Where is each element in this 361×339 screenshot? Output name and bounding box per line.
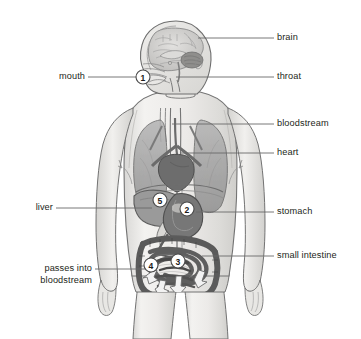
label-brain: brain [277,32,298,44]
label-stomach: stomach [277,206,312,218]
label-passes-into-line2: bloodstream [0,275,92,287]
callout-marker-5[interactable]: 5 [153,193,167,207]
label-mouth: mouth [0,71,85,83]
label-throat: throat [277,71,301,83]
callout-marker-3[interactable]: 3 [171,254,185,268]
label-liver: liver [0,202,53,214]
callout-marker-3-label: 3 [176,257,181,267]
label-bloodstream: bloodstream [277,118,329,130]
callout-marker-2[interactable]: 2 [180,202,194,216]
anatomy-illustration: 1 2 3 4 5 [0,0,361,339]
label-heart: heart [277,147,298,159]
callout-marker-4-label: 4 [149,261,154,271]
rectum [176,290,184,324]
diagram-canvas: 1 2 3 4 5 brain throat bloodstream heart… [0,0,361,339]
label-passes-into-bloodstream: passes into bloodstream [0,263,92,286]
label-small-intestine: small intestine [277,250,337,262]
callout-marker-2-label: 2 [185,205,190,215]
head-profile [141,21,212,96]
callout-marker-1[interactable]: 1 [136,70,150,84]
callout-marker-4[interactable]: 4 [144,258,158,272]
label-passes-into-line1: passes into [0,263,92,275]
callout-marker-1-label: 1 [141,73,146,83]
callout-marker-5-label: 5 [158,196,163,206]
